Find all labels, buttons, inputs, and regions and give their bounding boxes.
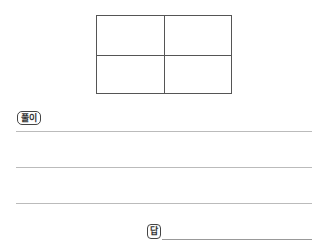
answer-line[interactable] xyxy=(162,239,312,240)
solution-line-3[interactable] xyxy=(16,203,312,204)
grid-horizontal-divider xyxy=(97,55,231,56)
solution-line-2[interactable] xyxy=(16,167,312,168)
rectangle-grid-figure xyxy=(96,15,232,94)
solution-line-1[interactable] xyxy=(16,131,312,132)
solution-label: 풀이 xyxy=(17,111,41,125)
answer-label: 답 xyxy=(147,224,161,239)
